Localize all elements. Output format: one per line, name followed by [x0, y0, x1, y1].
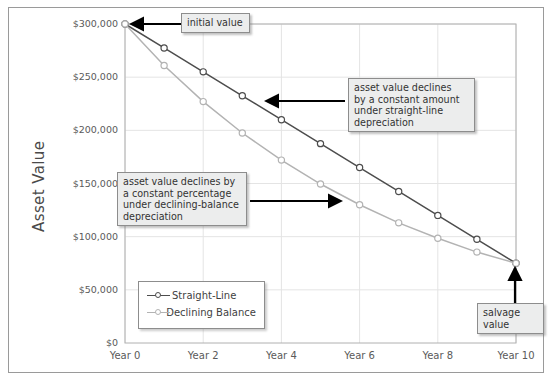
series-marker [357, 202, 363, 208]
legend-item-declining-balance: Declining Balance [147, 304, 256, 321]
series-marker [474, 236, 480, 242]
series-marker [278, 117, 284, 123]
legend-label-declining-balance: Declining Balance [166, 307, 256, 318]
series-marker [396, 220, 402, 226]
series-marker [239, 93, 245, 99]
series-marker [317, 181, 323, 187]
series-marker [161, 62, 167, 68]
legend-swatch-straight-line [147, 291, 170, 301]
chart-canvas [0, 0, 554, 382]
legend-label-straight-line: Straight-Line [172, 290, 236, 301]
series-marker [357, 164, 363, 170]
series-marker [513, 260, 519, 266]
annotation-initial-value: initial value [181, 13, 250, 33]
series-marker [317, 141, 323, 147]
series-marker [200, 69, 206, 75]
series-marker [278, 157, 284, 163]
series-marker [161, 45, 167, 51]
legend-item-straight-line: Straight-Line [147, 287, 256, 304]
series-marker [474, 249, 480, 255]
legend-swatch-declining-balance [147, 308, 164, 318]
series-marker [200, 99, 206, 105]
annotation-salvage-value: salvage value [477, 303, 544, 334]
series-marker [435, 235, 441, 241]
chart-legend: Straight-Line Declining Balance [138, 281, 265, 329]
series-marker [239, 130, 245, 136]
series-marker [122, 21, 128, 27]
series-marker [435, 212, 441, 218]
annotation-straight-line-note: asset value declines by a constant amoun… [348, 78, 475, 132]
series-marker [396, 188, 402, 194]
annotation-declining-balance-note: asset value declines by a constant perce… [117, 172, 247, 226]
